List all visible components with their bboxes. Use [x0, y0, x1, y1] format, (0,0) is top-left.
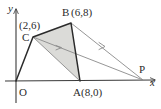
label-a-coord: (8,0): [81, 87, 102, 98]
label-y-axis: y: [8, 3, 13, 14]
label-b-point: B: [62, 7, 69, 18]
label-a-point: A: [73, 87, 81, 98]
label-b-coord: (6,8): [71, 7, 92, 18]
label-p-point: P: [139, 64, 145, 75]
label-origin: O: [19, 87, 27, 98]
label-x-axis: x: [150, 77, 155, 88]
geometry-figure: (2,6) C B (6,8) A (8,0) P O y x: [0, 0, 161, 109]
label-c-point: C: [22, 32, 29, 43]
segment-c-p: [33, 37, 143, 80]
segment-b-p: [71, 23, 143, 80]
label-c-coord: (2,6): [19, 20, 40, 31]
